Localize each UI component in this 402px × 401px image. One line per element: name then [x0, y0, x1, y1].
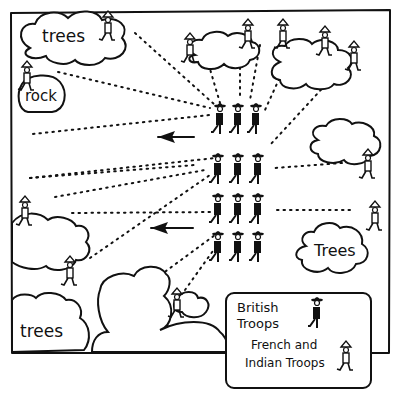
label-trees-right: Trees	[313, 241, 356, 260]
legend-british-line2: Troops	[236, 316, 279, 331]
british-troops-formation	[209, 103, 264, 262]
legend-british-line1: British	[237, 300, 279, 315]
trees-cloud-top-right	[272, 39, 352, 89]
trees-cloud-left	[12, 214, 89, 270]
battle-diagram: trees rock Trees trees	[0, 0, 402, 401]
legend-french-line2: Indian Troops	[245, 356, 325, 370]
legend-french-line1: French and	[251, 338, 317, 352]
legend: British Troops French and Indian Troops	[226, 293, 371, 388]
label-trees-top-left: trees	[42, 26, 85, 46]
label-trees-bottom-left: trees	[20, 321, 63, 341]
trees-cloud-bottom-center	[92, 267, 230, 352]
label-rock: rock	[25, 87, 57, 105]
retreat-arrow-upper	[158, 131, 194, 143]
retreat-arrow-lower	[151, 222, 193, 234]
